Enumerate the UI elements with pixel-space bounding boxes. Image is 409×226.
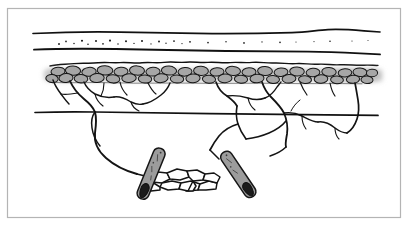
stratigraphic-cross-section-drawing	[0, 0, 409, 226]
figure-container: Stratigraphic cross-section sketch Hand-…	[0, 0, 409, 226]
